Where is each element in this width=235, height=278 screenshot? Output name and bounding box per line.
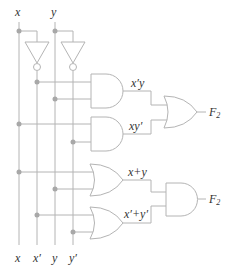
- logic-circuit-diagram: x y x x′ y y′ x′y xy′ x+y x′+y′ F2 F2: [0, 0, 235, 278]
- wire-and1-out: [123, 91, 168, 105]
- label-and2-output: xy′: [128, 119, 143, 133]
- not-gate-y: [61, 42, 85, 63]
- inverter-bubble-y: [70, 64, 77, 71]
- label-or1-output: x+y: [127, 165, 147, 179]
- junction-dot: [17, 122, 22, 127]
- label-or2-output: x′+y′: [123, 207, 148, 221]
- label-f2-bottom: F2: [208, 192, 220, 207]
- junction-dot: [53, 97, 58, 102]
- junction-dot: [71, 140, 76, 145]
- junction-dot: [17, 29, 22, 34]
- or-gate-1: [90, 164, 123, 196]
- wire-y-to-not2: [55, 31, 73, 42]
- and-gate-bottom: [166, 183, 198, 216]
- label-bottom-y: y: [51, 251, 58, 265]
- label-and1-output: x′y: [130, 76, 145, 90]
- or-gate-2: [90, 207, 123, 239]
- label-bottom-x: x: [14, 251, 21, 265]
- junction-dot: [35, 80, 40, 85]
- not-gate-x: [25, 42, 49, 63]
- and-gate-2: [91, 117, 123, 151]
- wire-x-to-not1: [19, 31, 37, 42]
- junction-dot: [53, 187, 58, 192]
- junction-dot: [35, 213, 40, 218]
- label-bottom-x-prime: x′: [32, 251, 41, 265]
- junction-dot: [17, 170, 22, 175]
- junction-dot: [53, 29, 58, 34]
- or-gate-top: [164, 96, 197, 128]
- inverter-bubble-x: [34, 64, 41, 71]
- label-f2-top: F2: [208, 105, 220, 120]
- junction-dot: [71, 230, 76, 235]
- wire-or1-out: [123, 180, 166, 192]
- and-gate-1: [91, 74, 123, 108]
- label-top-y: y: [50, 5, 57, 19]
- label-bottom-y-prime: y′: [68, 251, 77, 265]
- label-top-x: x: [14, 5, 21, 19]
